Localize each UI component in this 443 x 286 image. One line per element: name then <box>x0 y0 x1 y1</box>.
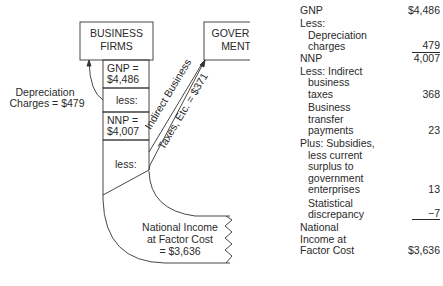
row-value: 23 <box>398 125 440 136</box>
table-row-national-income: National Income at Factor Cost $3,636 <box>300 222 440 256</box>
row-label: National Income at Factor Cost <box>300 222 398 256</box>
table-row-gnp: GNP $4,486 <box>300 5 440 16</box>
row-label: Less: Indirect business taxes <box>300 66 398 100</box>
row-value: 13 <box>398 184 440 195</box>
label-line: Factor Cost <box>300 245 398 256</box>
row-value: 479 <box>412 40 440 52</box>
national-income-label: National Income <box>142 221 218 233</box>
label-line: enterprises <box>300 184 398 195</box>
label-line: National <box>300 222 398 233</box>
flow-diagram: BUSINESS FIRMS GOVERN- MENT GNP = $4,486… <box>0 0 250 286</box>
label-line: discrepancy <box>308 209 398 220</box>
nnp-value: $4,007 <box>107 125 139 137</box>
national-income-label-3: = $3,636 <box>159 245 200 257</box>
table-row-nnp: NNP 4,007 <box>300 53 440 64</box>
row-label: Plus: Subsidies, less current surplus to… <box>300 138 398 195</box>
row-value: $4,486 <box>398 5 440 16</box>
label-line: charges <box>308 41 398 52</box>
table-row-transfer-payments: Business transfer payments 23 <box>300 102 440 136</box>
depreciation-label-2: Charges = $479 <box>9 97 84 109</box>
government-label: GOVERN- <box>211 27 250 39</box>
row-label: Business transfer payments <box>300 102 398 136</box>
label-line: taxes <box>300 89 398 100</box>
table-row-depreciation: Depreciation charges 479 <box>300 30 440 53</box>
label-line: payments <box>308 125 398 136</box>
table-row-indirect-taxes: Less: Indirect business taxes 368 <box>300 66 440 100</box>
row-label: GNP <box>300 5 398 16</box>
table-row-discrepancy: Statistical discrepancy −7 <box>300 198 440 221</box>
government-label-2: MENT <box>221 40 250 52</box>
table-row-subsidies: Plus: Subsidies, less current surplus to… <box>300 138 440 195</box>
row-value: 4,007 <box>398 53 440 64</box>
depreciation-arrow <box>89 62 103 100</box>
row-value: $3,636 <box>398 245 440 256</box>
torn-edge <box>225 216 232 263</box>
row-label: NNP <box>300 53 398 64</box>
income-table: GNP $4,486 Less: Depreciation charges 47… <box>300 5 440 257</box>
business-firms-label-2: FIRMS <box>100 40 133 52</box>
label-line: Business <box>308 102 398 113</box>
less-label-1: less: <box>116 94 138 106</box>
less-label-2: less: <box>115 158 137 170</box>
row-value: −7 <box>412 208 440 220</box>
business-firms-label: BUSINESS <box>90 27 143 39</box>
row-label: Statistical discrepancy <box>300 198 398 221</box>
gnp-value: $4,486 <box>107 73 139 85</box>
row-label: Depreciation charges <box>300 30 398 53</box>
row-value: 368 <box>398 89 440 100</box>
national-income-label-2: at Factor Cost <box>147 233 213 245</box>
label-line: surplus to <box>300 161 398 172</box>
